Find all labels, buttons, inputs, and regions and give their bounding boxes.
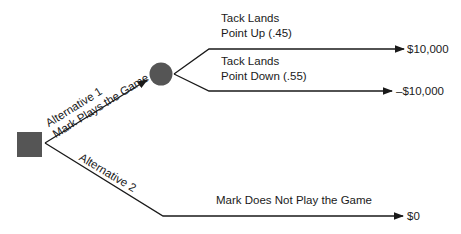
no-play-label: Mark Does Not Play the Game bbox=[216, 193, 372, 208]
chance-node bbox=[150, 63, 173, 86]
up-label-line2: Point Up (.45) bbox=[221, 26, 292, 41]
outcome-no-play: $0 bbox=[407, 209, 420, 224]
up-label-line1: Tack Lands bbox=[221, 11, 279, 26]
down-label-line1: Tack Lands bbox=[221, 54, 279, 69]
outcome-up: $10,000 bbox=[407, 42, 449, 57]
outcome-down: –$10,000 bbox=[396, 84, 444, 99]
decision-node bbox=[17, 132, 42, 157]
down-label-line2: Point Down (.55) bbox=[221, 69, 307, 84]
